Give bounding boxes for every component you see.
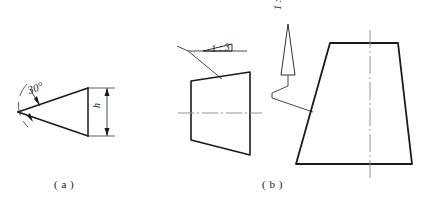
caption-a: ( a ) bbox=[54, 178, 74, 190]
slope-ratio-label: 1 : 5 bbox=[272, 0, 283, 10]
angle-arc bbox=[18, 84, 28, 127]
slope-leader-line bbox=[272, 75, 313, 112]
taper-ratio-label: 1 : 3 bbox=[211, 41, 231, 54]
drawing-sheet: 30° h 1 : 3 1 : 5 ( a ) ( b ) bbox=[0, 0, 443, 208]
height-arrowhead-bottom bbox=[105, 128, 110, 136]
height-arrowhead-top bbox=[105, 88, 110, 96]
figure-b-large-trapezoid-group bbox=[272, 24, 412, 178]
figure-b-small-trapezoid-group bbox=[177, 44, 262, 155]
slope-symbol-arrow-icon bbox=[281, 24, 295, 75]
height-dimension-label: h bbox=[91, 103, 102, 108]
small-trapezoid-outline bbox=[191, 72, 250, 155]
technical-drawing-canvas bbox=[0, 0, 443, 208]
caption-b: ( b ) bbox=[262, 178, 283, 190]
large-trapezoid-outline bbox=[296, 43, 412, 164]
